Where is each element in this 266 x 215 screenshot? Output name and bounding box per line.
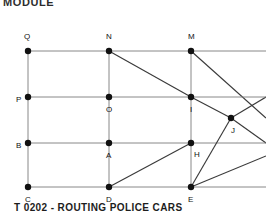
graph-node-label-n: N (106, 33, 112, 41)
caption-strip: T 0202 - ROUTING POLICE CARS (0, 203, 266, 215)
graph-node-e[interactable] (188, 184, 194, 190)
graph-node-label-p: P (16, 96, 21, 104)
graph-edge-i-j (191, 97, 231, 118)
module-heading: MODULE (3, 0, 54, 8)
graph-edge-d-h (109, 143, 191, 187)
graph-node-a[interactable] (106, 140, 112, 146)
graph-node-b[interactable] (25, 140, 31, 146)
graph-node-o[interactable] (106, 94, 112, 100)
graph-node-label-j: J (231, 127, 235, 135)
graph-canvas (0, 14, 266, 200)
graph-figure: QNMPOIBAHCDEJ (0, 14, 266, 200)
graph-node-label-m: M (188, 33, 195, 41)
graph-node-label-i: I (190, 106, 192, 114)
graph-node-m[interactable] (188, 48, 194, 54)
graph-node-label-b: B (16, 142, 21, 150)
graph-node-d[interactable] (106, 184, 112, 190)
graph-node-i[interactable] (188, 94, 194, 100)
graph-node-c[interactable] (25, 184, 31, 190)
graph-node-label-a: A (106, 152, 111, 160)
graph-open-edge-e-3 (191, 156, 266, 187)
graph-edge-n-i (109, 51, 191, 97)
graph-node-n[interactable] (106, 48, 112, 54)
figure-page: MODULE QNMPOIBAHCDEJ T 0202 - ROUTING PO… (0, 0, 266, 215)
graph-open-edge-j-1 (231, 97, 266, 118)
graph-node-label-q: Q (24, 33, 30, 41)
graph-node-p[interactable] (25, 94, 31, 100)
graph-open-edge-m-0 (191, 51, 266, 118)
graph-open-edge-j-2 (231, 118, 266, 143)
graph-node-j[interactable] (228, 115, 234, 121)
figure-caption: T 0202 - ROUTING POLICE CARS (14, 203, 182, 213)
graph-node-q[interactable] (25, 48, 31, 54)
graph-node-label-o: O (106, 106, 112, 114)
header-strip: MODULE (0, 0, 266, 12)
graph-node-label-h: H (194, 151, 200, 159)
graph-node-h[interactable] (188, 140, 194, 146)
